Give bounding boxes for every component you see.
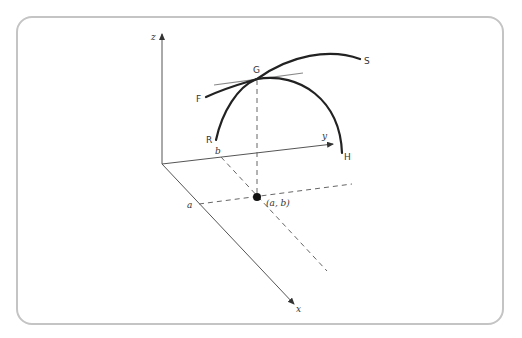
x-axis-label: x (296, 304, 301, 314)
curves (206, 54, 360, 153)
point-ab (253, 193, 261, 201)
G-label: G (253, 65, 260, 75)
S-label: S (364, 56, 370, 66)
b-label: b (215, 146, 221, 156)
H-label: H (344, 152, 351, 162)
diagram-canvas: z y x b a (a, b) G F S R H (0, 0, 522, 338)
y-axis (162, 144, 333, 164)
ab-label: (a, b) (266, 198, 290, 208)
b-parallel-line (221, 157, 327, 271)
axes (162, 34, 333, 304)
R-label: R (206, 135, 212, 145)
x-axis (162, 164, 294, 304)
a-label: a (187, 200, 192, 210)
curve-RH (216, 78, 342, 153)
z-axis-label: z (150, 32, 156, 42)
y-axis-label: y (321, 131, 328, 141)
F-label: F (196, 94, 201, 104)
